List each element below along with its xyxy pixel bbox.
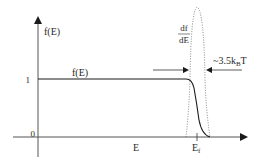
fermi-level-label: Ef xyxy=(192,142,201,155)
tick-label-one: 1 xyxy=(26,75,31,85)
derivative-numerator: df xyxy=(180,23,188,33)
x-axis-label: E xyxy=(133,142,139,153)
tick-label-zero: 0 xyxy=(31,129,36,139)
derivative-denominator: dE xyxy=(179,35,190,45)
fermi-dirac-diagram: f(E) 1 0 f(E) E Ef df dE ~3.5kBT xyxy=(0,0,266,165)
y-axis-label: f(E) xyxy=(44,26,60,38)
curve-label: f(E) xyxy=(72,67,88,79)
width-label: ~3.5kBT xyxy=(213,55,247,68)
derivative-peak-curve xyxy=(186,7,210,137)
fermi-function-curve xyxy=(38,79,210,137)
